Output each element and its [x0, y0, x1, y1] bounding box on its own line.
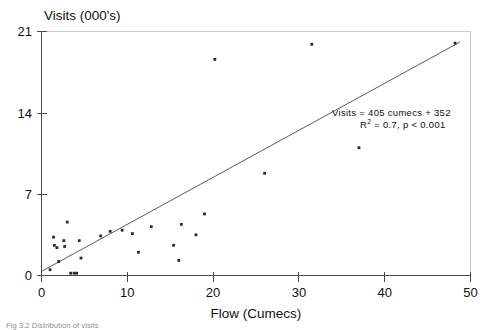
data-point — [52, 236, 55, 239]
y-tick-label-7: 7 — [25, 187, 32, 202]
data-point — [63, 245, 66, 248]
x-tick-label-40: 40 — [377, 285, 391, 300]
data-point — [180, 223, 183, 226]
annotation-equation: Visits = 405 cumecs + 352 — [332, 107, 451, 118]
x-tick-label-30: 30 — [292, 285, 306, 300]
data-points-layer — [49, 42, 457, 275]
data-point — [69, 272, 72, 275]
data-point — [99, 235, 102, 238]
data-point — [263, 172, 266, 175]
x-tick-label-20: 20 — [206, 285, 220, 300]
data-point — [56, 246, 59, 249]
regression-annotation: Visits = 405 cumecs + 352 R2 = 0.7, p < … — [332, 107, 451, 130]
x-tick-label-10: 10 — [120, 285, 134, 300]
data-point — [213, 58, 216, 61]
data-point — [75, 272, 78, 275]
data-point — [73, 272, 76, 275]
data-point — [66, 221, 69, 224]
y-axis-title: Visits (000's) — [44, 8, 121, 23]
x-axis-ticks — [42, 272, 471, 282]
data-point — [150, 225, 153, 228]
data-point — [358, 146, 361, 149]
annotation-r2: R2 = 0.7, p < 0.001 — [360, 118, 446, 130]
data-point — [121, 229, 124, 232]
data-point — [49, 268, 52, 271]
data-point — [62, 239, 65, 242]
y-tick-label-21: 21 — [18, 24, 32, 39]
data-point — [109, 230, 112, 233]
data-point — [195, 233, 198, 236]
data-point — [310, 43, 313, 46]
figure-caption: Fig 3.2 Distribution of visits — [6, 321, 99, 330]
annotation-r2-rest: = 0.7, p < 0.001 — [371, 119, 445, 130]
data-point — [57, 260, 60, 263]
y-tick-label-0: 0 — [25, 268, 32, 283]
data-point — [80, 257, 83, 260]
x-tick-labels: 0 10 20 30 40 50 — [38, 285, 478, 300]
x-axis-title: Flow (Cumecs) — [211, 306, 302, 321]
x-tick-label-0: 0 — [38, 285, 45, 300]
data-point — [137, 251, 140, 254]
y-tick-labels: 21 14 7 0 — [18, 24, 32, 283]
regression-line — [42, 42, 461, 271]
data-point — [172, 244, 175, 247]
data-point — [131, 232, 134, 235]
data-point — [454, 42, 457, 45]
data-point — [78, 239, 81, 242]
data-point — [53, 244, 56, 247]
data-point — [203, 213, 206, 216]
x-tick-label-50: 50 — [463, 285, 477, 300]
y-tick-label-14: 14 — [18, 106, 32, 121]
data-point — [177, 259, 180, 262]
annotation-r2-prefix: R — [360, 119, 367, 130]
